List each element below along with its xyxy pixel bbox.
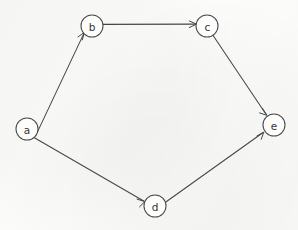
node-b[interactable]: b (81, 15, 103, 37)
edge-c-e[interactable] (213, 36, 267, 116)
edge-c-e-arrowhead-icon (260, 108, 267, 115)
node-a[interactable]: a (16, 118, 38, 140)
diagram-canvas: a b c d e (0, 0, 298, 230)
edge-a-d[interactable] (34, 138, 144, 207)
edge-a-b-line (36, 34, 84, 136)
node-e[interactable]: e (263, 114, 285, 136)
edge-a-d-line (34, 138, 143, 201)
node-c-label: c (205, 21, 211, 33)
edge-d-e-arrowhead-icon (257, 132, 264, 139)
edge-d-e[interactable] (166, 132, 264, 202)
edge-d-e-line (166, 133, 263, 203)
node-a-label: a (24, 124, 30, 136)
node-c[interactable]: c (196, 15, 218, 37)
node-b-label: b (89, 21, 96, 33)
node-d[interactable]: d (144, 195, 166, 217)
directed-graph: a b c d e (0, 0, 298, 230)
edge-a-b[interactable] (36, 32, 85, 135)
edge-layer (34, 21, 267, 207)
edge-b-c[interactable] (103, 21, 197, 28)
node-e-label: e (271, 120, 277, 132)
node-d-label: d (152, 201, 159, 213)
edge-c-e-line (213, 36, 266, 115)
node-layer: a b c d e (16, 15, 285, 217)
